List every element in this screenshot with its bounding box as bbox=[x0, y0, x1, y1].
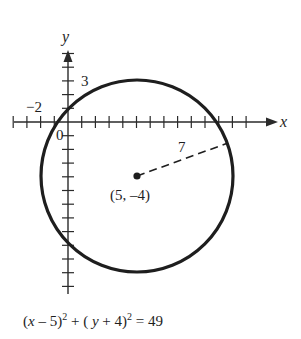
x-axis-label: x bbox=[279, 113, 287, 130]
tick-label-3: 3 bbox=[81, 73, 89, 89]
eq-part: – 5) bbox=[35, 313, 63, 329]
y-axis bbox=[62, 50, 74, 294]
center-label: (5, –4) bbox=[110, 187, 150, 204]
eq-var-y: y bbox=[92, 313, 99, 329]
eq-part: + 4) bbox=[99, 313, 127, 329]
center-point bbox=[133, 172, 140, 179]
tick-label-neg2: −2 bbox=[26, 99, 42, 115]
y-axis-label: y bbox=[60, 28, 70, 46]
y-axis-arrow-icon bbox=[64, 50, 73, 62]
radius-label: 7 bbox=[178, 139, 186, 155]
x-axis bbox=[13, 116, 278, 128]
eq-part: + ( bbox=[67, 313, 92, 329]
circle-equation: (x – 5)2 + ( y + 4)2 = 49 bbox=[23, 313, 163, 330]
origin-label: 0 bbox=[56, 127, 64, 143]
x-axis-arrow-icon bbox=[266, 118, 278, 127]
coordinate-plane-figure: y x 3 −2 0 7 (5, –4) bbox=[0, 0, 301, 339]
eq-part: = 49 bbox=[132, 313, 163, 329]
eq-var-x: x bbox=[28, 313, 35, 329]
